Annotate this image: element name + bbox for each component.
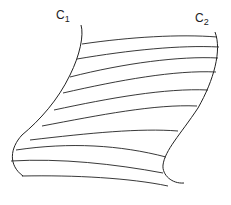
ruling-line	[42, 106, 197, 126]
curve-c1	[12, 25, 82, 176]
ruling-line	[54, 90, 208, 110]
ruling-line	[16, 146, 166, 157]
ruling-line	[82, 36, 217, 44]
ruled-surface-diagram	[0, 0, 231, 205]
ruling-line	[70, 58, 218, 77]
label-c2: C2	[195, 12, 209, 27]
ruling-line	[22, 176, 168, 186]
ruling-lines	[11, 36, 219, 186]
ruling-line	[30, 130, 178, 140]
ruling-line	[11, 160, 163, 173]
ruling-line	[77, 47, 219, 59]
curve-c2	[163, 32, 218, 183]
label-c1: C1	[56, 9, 70, 24]
